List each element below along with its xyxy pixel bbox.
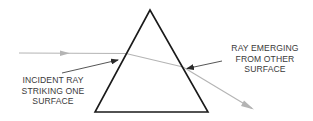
incident-label-line-1: INCIDENT RAY: [22, 75, 83, 85]
incident-label-line-2: STRIKING ONE: [22, 86, 85, 96]
refracted-ray-inside-prism: [126, 54, 183, 68]
incident-label-line-3: SURFACE: [32, 96, 73, 106]
emerging-label-line-1: RAY EMERGING: [231, 43, 298, 53]
incident-ray: [19, 53, 126, 54]
emerging-label-line-3: SURFACE: [244, 64, 285, 74]
incident-pointer-arrow: [62, 60, 118, 73]
emerging-label: RAY EMERGING FROM OTHER SURFACE: [231, 43, 298, 74]
incident-label: INCIDENT RAY STRIKING ONE SURFACE: [22, 75, 85, 106]
arrowhead-down-right-icon: [241, 101, 254, 110]
emerging-label-line-2: FROM OTHER: [236, 54, 295, 64]
prism-diagram: INCIDENT RAY STRIKING ONE SURFACE RAY EM…: [0, 0, 313, 121]
arrowhead-right-icon: [60, 51, 70, 57]
emerging-pointer-arrow: [187, 61, 222, 69]
